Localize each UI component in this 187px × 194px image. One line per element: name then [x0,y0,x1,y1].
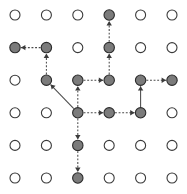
graph-edge [84,78,104,83]
edge-arrowhead-icon [138,86,143,90]
graph-node-filled[interactable] [73,140,83,150]
graph-node-filled[interactable] [10,42,20,52]
graph-node-open[interactable] [167,140,177,150]
graph-node-open[interactable] [167,173,177,183]
edge-arrowhead-icon [130,110,134,115]
graph-node-open[interactable] [10,173,20,183]
graph-edge [51,85,74,109]
graph-node-filled[interactable] [135,75,145,85]
graph-edge [21,45,41,50]
edge-arrowhead-icon [75,86,80,90]
edge-arrowhead-icon [75,135,80,139]
graph-edge [107,21,112,42]
edge-arrowhead-icon [107,21,112,25]
graph-node-filled[interactable] [41,42,51,52]
graph-node-open[interactable] [41,108,51,118]
graph-node-open[interactable] [104,140,114,150]
graph-node-open[interactable] [10,75,20,85]
graph-node-filled[interactable] [135,108,145,118]
graph-node-open[interactable] [10,10,20,20]
graph-edge [146,78,166,83]
graph-node-open[interactable] [136,173,146,183]
graph-node-filled[interactable] [73,173,83,183]
graph-node-open[interactable] [73,43,83,53]
graph-node-filled[interactable] [41,75,51,85]
graph-edge [138,86,143,107]
graph-node-open[interactable] [167,10,177,20]
graph-node-filled[interactable] [73,75,83,85]
graph-node-filled[interactable] [104,75,114,85]
graph-edge [44,54,49,75]
edge-arrowhead-icon [75,168,80,172]
graph-node-open[interactable] [136,10,146,20]
graph-edge [75,119,80,140]
graph-edge [84,110,104,115]
graph-node-filled[interactable] [104,42,114,52]
graph-node-filled[interactable] [104,108,114,118]
graph-node-filled[interactable] [73,108,83,118]
edge-arrowhead-icon [44,54,49,58]
graph-node-open[interactable] [136,43,146,53]
graph-edge [115,110,135,115]
graph-node-open[interactable] [73,10,83,20]
graph-node-open[interactable] [10,140,20,150]
grid-graph-figure [0,0,187,194]
graph-node-open[interactable] [41,10,51,20]
edge-arrowhead-icon [162,78,166,83]
graph-node-open[interactable] [10,108,20,118]
graph-node-filled[interactable] [104,10,114,20]
edge-arrowhead-icon [21,45,25,50]
graph-node-open[interactable] [136,140,146,150]
graph-edge [75,86,80,107]
graph-node-open[interactable] [167,108,177,118]
edge-arrowhead-icon [99,110,103,115]
graph-node-filled[interactable] [167,75,177,85]
graph-edge [75,151,80,172]
edge-arrowhead-icon [107,54,112,58]
graph-node-open[interactable] [41,173,51,183]
graph-canvas [0,0,187,194]
graph-node-open[interactable] [104,173,114,183]
edge-arrowhead-icon [99,78,103,83]
graph-edge [107,54,112,75]
graph-node-open[interactable] [41,140,51,150]
graph-node-open[interactable] [167,43,177,53]
nodes-layer [10,10,177,183]
